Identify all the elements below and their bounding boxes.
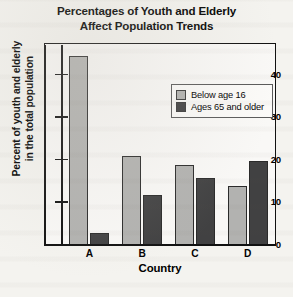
- legend-label-below-age-16: Below age 16: [191, 90, 246, 100]
- legend-item-below-age-16: Below age 16: [176, 89, 268, 101]
- y-axis-title-line-1: Percent of youth and elderly: [11, 9, 24, 209]
- bar-group-c: [169, 45, 222, 245]
- chart-title-line-1: Percentages of Youth and Elderly: [0, 4, 293, 19]
- legend-label-ages-65-and-older: Ages 65 and older: [191, 102, 264, 112]
- bar-c-ages-65-and-older: [196, 178, 215, 245]
- chart-title-line-2: Affect Population Trends: [0, 19, 293, 34]
- y-axis-tick-0: [55, 244, 68, 245]
- x-axis-label-b: B: [127, 248, 157, 259]
- y-axis-tick-40: [55, 74, 68, 75]
- y-axis-tick-20: [55, 159, 68, 160]
- y-axis-tick-label-10: 10: [249, 197, 293, 207]
- y-axis-tick-label-20: 20: [249, 155, 293, 165]
- legend-swatch-icon-ages-65-and-older: [176, 102, 186, 112]
- x-axis-label-a: A: [74, 248, 104, 259]
- chart-legend: Below age 16 Ages 65 and older: [171, 84, 273, 118]
- bar-series-layer: [63, 45, 274, 245]
- x-axis-line: [44, 244, 276, 246]
- legend-item-ages-65-and-older: Ages 65 and older: [176, 101, 268, 113]
- y-axis-tick-30: [55, 116, 68, 117]
- bar-c-below-age-16: [175, 165, 194, 244]
- x-axis-title: Country: [44, 262, 276, 274]
- bar-b-below-age-16: [122, 156, 141, 244]
- y-axis-tick-label-40: 40: [249, 70, 293, 80]
- bar-group-b: [116, 45, 169, 245]
- x-axis-label-d: D: [233, 248, 263, 259]
- bar-a-below-age-16: [69, 56, 88, 245]
- x-axis-label-c: C: [180, 248, 210, 259]
- y-axis-title: Percent of youth and elderly in the tota…: [11, 9, 36, 209]
- chart-title: Percentages of Youth and Elderly Affect …: [0, 4, 293, 33]
- y-axis-tick-10: [55, 201, 68, 202]
- y-axis-title-line-2: in the total population: [24, 9, 37, 209]
- bar-d-below-age-16: [228, 186, 247, 244]
- bar-group-a: [63, 45, 116, 245]
- y-axis-line: [44, 45, 46, 246]
- legend-swatch-icon-below-age-16: [176, 90, 186, 100]
- bar-a-ages-65-and-older: [90, 233, 109, 245]
- bar-b-ages-65-and-older: [143, 195, 162, 244]
